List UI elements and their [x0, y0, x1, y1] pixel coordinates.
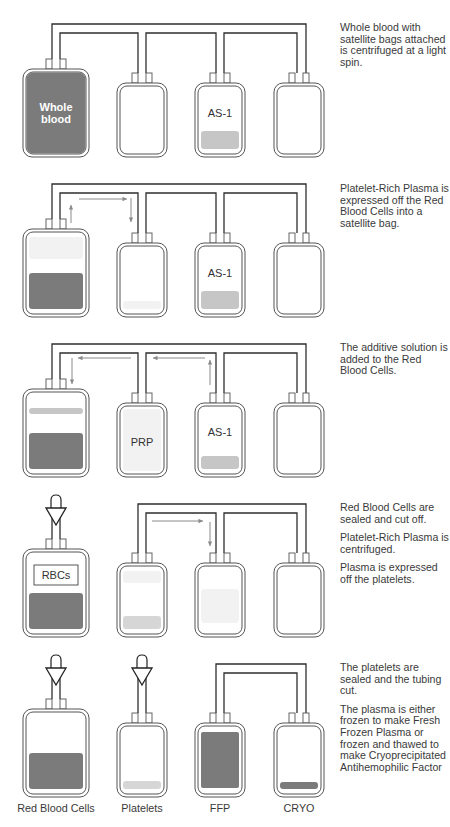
whole-blood-bag: Wholeblood	[23, 59, 89, 157]
bag-port	[46, 379, 52, 389]
tubing	[52, 184, 306, 233]
bag-port	[303, 73, 309, 83]
bag-contents-layer	[201, 732, 239, 788]
bag-port	[146, 713, 152, 723]
bag-port	[303, 393, 309, 403]
bag-port	[210, 393, 216, 403]
bag-contents	[201, 131, 239, 149]
bag-port	[224, 233, 230, 243]
bag-contents	[29, 433, 83, 469]
plasma-bag	[195, 553, 245, 637]
tubing	[224, 33, 297, 73]
bag-contents-layer	[29, 408, 83, 414]
seal-clamp-icon	[132, 655, 152, 685]
tubing	[224, 353, 297, 393]
panel-step-3: PRPAS-1	[23, 344, 324, 477]
bag-port	[303, 713, 309, 723]
as1-bag: AS-1	[195, 233, 245, 317]
as1-bag: AS-1	[195, 73, 245, 157]
red-cell-bag	[23, 379, 89, 477]
flow-arrow-icon	[208, 522, 212, 546]
prp-bag: PRP	[117, 393, 167, 477]
bag-port	[146, 233, 152, 243]
caption-paragraph: The plasma is either frozen to make Fres…	[340, 704, 450, 774]
bag-port	[46, 699, 52, 709]
satellite-bag-empty	[274, 233, 324, 317]
bag-port	[146, 73, 152, 83]
bag-label: AS-1	[208, 107, 232, 119]
caption-step-5: The platelets are sealed and the tubing …	[340, 662, 450, 780]
panel-step-4: RBCs	[23, 495, 324, 637]
bag-port	[289, 73, 295, 83]
caption-paragraph: Red Blood Cells are sealed and cut off.	[340, 502, 450, 525]
bag-port	[210, 233, 216, 243]
bag-port	[289, 713, 295, 723]
red-cell-bag	[23, 219, 89, 317]
flow-arrow-icon	[70, 358, 74, 384]
bag-contents	[123, 301, 161, 309]
flow-arrow-icon	[208, 360, 212, 385]
tubing	[224, 193, 297, 233]
caption-paragraph: The platelets are sealed and the tubing …	[340, 662, 450, 697]
bag-port	[289, 233, 295, 243]
bag-port	[46, 539, 52, 549]
seal-clamp-icon	[46, 655, 66, 685]
product-label: Red Blood Cells	[6, 802, 106, 814]
prp-bag	[117, 233, 167, 317]
platelet-bag	[117, 553, 167, 637]
satellite-bag-empty	[274, 73, 324, 157]
seal-clamp-icon	[46, 495, 66, 525]
bag-port	[60, 379, 66, 389]
bag-port	[132, 233, 138, 243]
bag-port	[224, 393, 230, 403]
bag-port	[46, 219, 52, 229]
bag-port	[132, 713, 138, 723]
tubing	[216, 664, 306, 713]
tubing	[224, 513, 297, 553]
tubing	[60, 33, 138, 73]
bag-port	[303, 233, 309, 243]
bag-port	[60, 699, 66, 709]
bag-port	[289, 553, 295, 563]
bag-label: Wholeblood	[40, 101, 73, 125]
caption-paragraph: The additive solution is added to the Re…	[340, 342, 450, 377]
caption-step-1: Whole blood with satellite bags attached…	[340, 22, 450, 75]
bag-contents-layer	[123, 571, 161, 583]
rbc-bag: RBCs	[23, 539, 89, 637]
bag-port	[224, 553, 230, 563]
bag-label: AS-1	[208, 426, 232, 438]
bag-port	[303, 553, 309, 563]
satellite-bag-empty	[274, 393, 324, 477]
flow-arrow-icon	[69, 205, 73, 223]
bag-contents	[29, 273, 83, 309]
bag-contents	[201, 291, 239, 309]
bag-label: AS-1	[208, 267, 232, 279]
bag-port	[210, 553, 216, 563]
bag-port	[60, 539, 66, 549]
bag-port	[146, 553, 152, 563]
product-label: CRYO	[249, 802, 349, 814]
bag-contents	[29, 593, 83, 629]
bag-contents	[123, 781, 161, 789]
bag-port	[132, 393, 138, 403]
tubing	[146, 33, 216, 73]
caption-step-4: Red Blood Cells are sealed and cut off.P…	[340, 502, 450, 593]
caption-paragraph: Platelet-Rich Plasma is expressed off th…	[340, 183, 450, 229]
caption-step-3: The additive solution is added to the Re…	[340, 342, 450, 384]
bag-port	[224, 73, 230, 83]
bag-contents-layer	[29, 237, 83, 259]
panel-step-5	[23, 655, 324, 797]
red-blood-cells-bag	[23, 699, 89, 797]
flow-arrow-icon	[129, 198, 133, 222]
bag-port	[60, 219, 66, 229]
bag-port	[46, 59, 52, 69]
bag-port	[132, 73, 138, 83]
flow-arrow-icon	[152, 519, 203, 523]
bag-port	[210, 713, 216, 723]
bag-port	[146, 393, 152, 403]
tubing	[224, 673, 297, 713]
caption-step-2: Platelet-Rich Plasma is expressed off th…	[340, 183, 450, 236]
panel-step-1: WholebloodAS-1	[23, 24, 324, 157]
bag-label: RBCs	[42, 569, 71, 581]
bag-port	[210, 73, 216, 83]
